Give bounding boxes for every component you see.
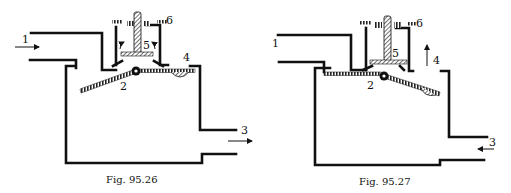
- piston-stem: [134, 12, 141, 54]
- piston-plate: [370, 60, 407, 64]
- stop-left: [112, 20, 122, 24]
- counterweight: [171, 72, 189, 77]
- chamber-body: [66, 66, 236, 163]
- stop-left: [360, 21, 371, 25]
- label-5: 5: [392, 47, 399, 60]
- stop-right: [408, 22, 416, 26]
- label-6: 6: [416, 17, 423, 30]
- label-1: 1: [272, 37, 279, 50]
- guide-right: [394, 22, 401, 28]
- guide-left: [127, 21, 134, 26]
- caption-fig-95-27: Fig. 95.27: [359, 176, 411, 187]
- label-3: 3: [241, 124, 248, 137]
- piston-plate: [121, 52, 153, 56]
- flow-arrow-housing-right: [152, 42, 155, 49]
- piston-stem: [384, 16, 391, 61]
- diagram-canvas: 1 2 3 4 5 6 Fig. 95.26: [0, 0, 511, 193]
- inlet-pipe: [30, 33, 116, 70]
- label-5: 5: [143, 39, 150, 52]
- inlet-pipe: [278, 35, 366, 72]
- label-4: 4: [183, 51, 190, 64]
- flap-right: [140, 69, 195, 73]
- label-1: 1: [22, 33, 29, 46]
- label-6: 6: [166, 14, 173, 27]
- label-3: 3: [489, 136, 496, 149]
- label-2: 2: [120, 80, 127, 93]
- figure-95-27: 1 2 3 4 5 6 Fig. 95.27: [272, 16, 496, 187]
- guide-right: [143, 21, 150, 26]
- figure-95-26: 1 2 3 4 5 6 Fig. 95.26: [15, 12, 252, 185]
- label-2: 2: [367, 79, 374, 92]
- flap-left: [324, 72, 381, 76]
- guide-left: [375, 22, 382, 28]
- caption-fig-95-26: Fig. 95.26: [106, 174, 158, 185]
- label-4: 4: [433, 54, 440, 67]
- flow-arrow-housing-left: [120, 42, 124, 49]
